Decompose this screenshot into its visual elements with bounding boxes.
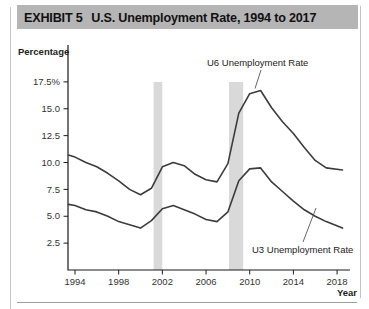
u3-series-label: U3 Unemployment Rate [252,244,353,255]
y-tick-label: 2.5 [47,237,60,248]
x-tick-label: 2018 [327,276,348,287]
chart-canvas: 17.5%15.012.510.07.55.02.519941998200220… [0,0,369,309]
series-line-u3 [68,168,342,228]
x-tick-label: 2006 [195,276,216,287]
x-tick-label: 1998 [108,276,129,287]
axes [68,45,350,270]
u6-series-label: U6 Unemployment Rate [207,57,308,68]
y-tick-label: 17.5% [33,76,60,87]
exhibit-container: EXHIBIT 5U.S. Unemployment Rate, 1994 to… [0,0,369,309]
y-tick-label: 5.0 [47,210,60,221]
y-tick-label: 10.0 [42,157,61,168]
y-tick-label: 15.0 [42,103,61,114]
y-tick-label: 12.5 [42,130,61,141]
x-tick-label: 2010 [239,276,260,287]
y-tick-label: 7.5 [47,184,60,195]
u6-leader-line [255,70,261,89]
x-tick-label: 2014 [283,276,304,287]
x-axis-title: Year [307,287,357,298]
x-tick-label: 2002 [152,276,173,287]
x-tick-label: 1994 [64,276,85,287]
series-line-u6 [68,91,342,195]
